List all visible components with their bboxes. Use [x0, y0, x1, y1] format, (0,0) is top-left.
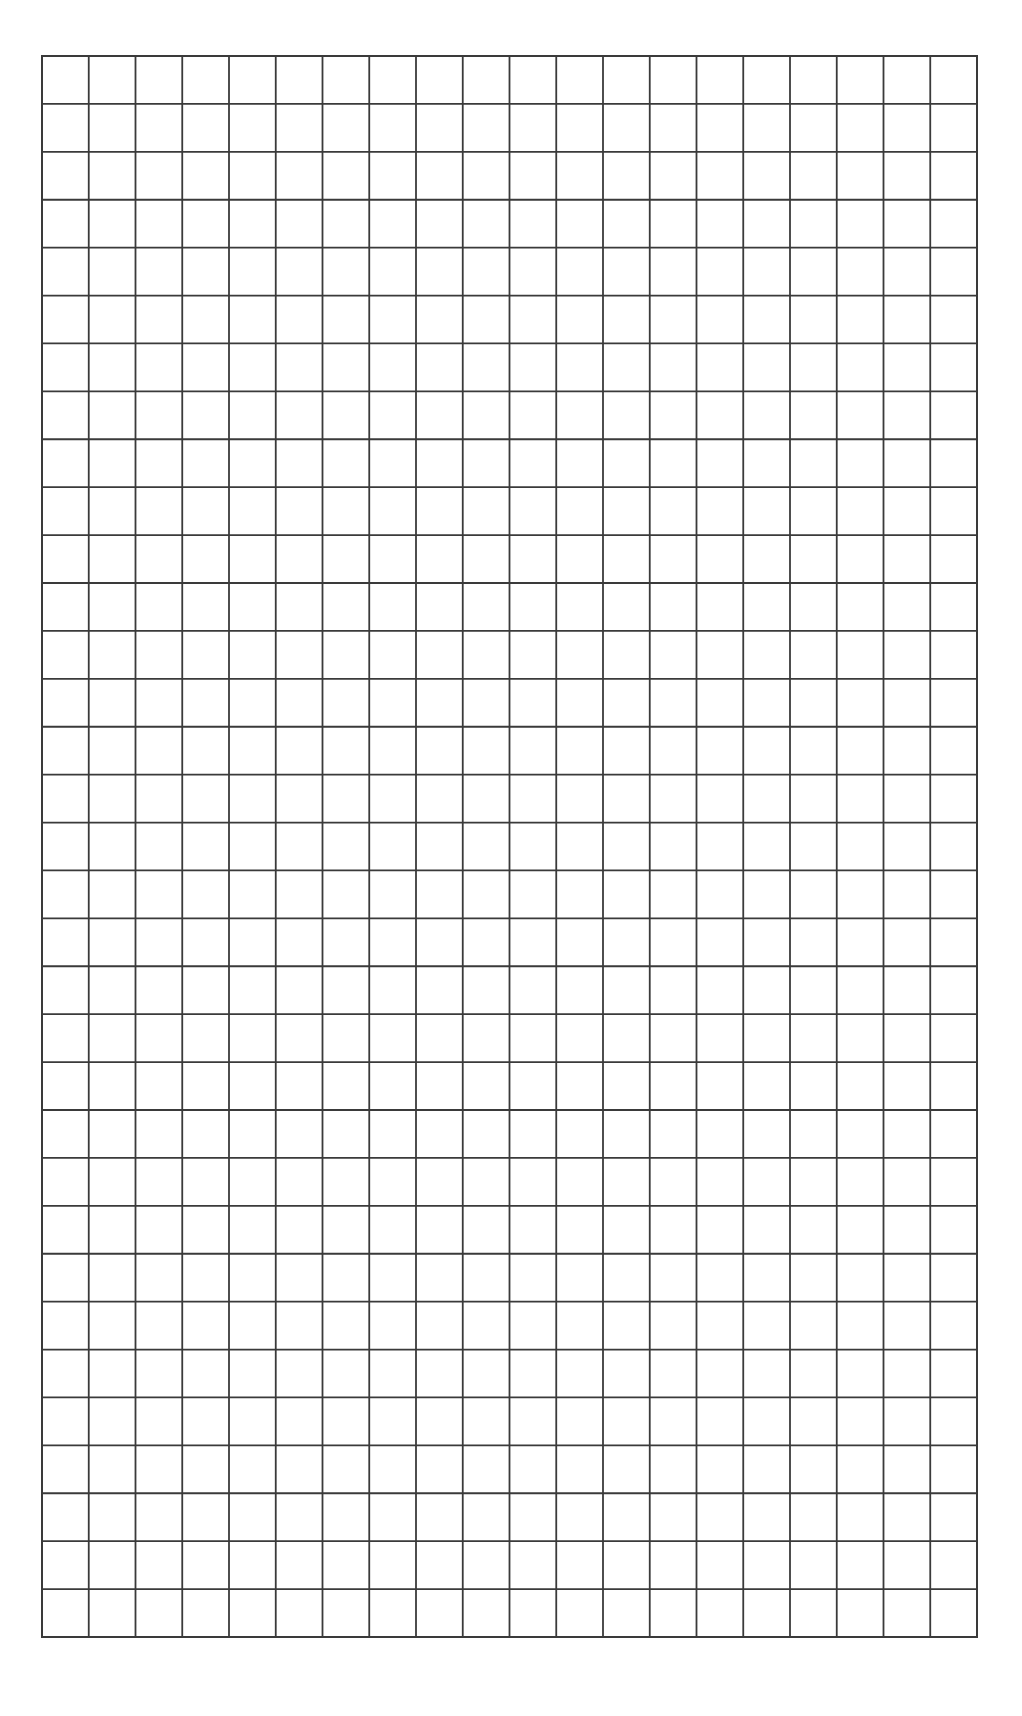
graph-paper-grid	[42, 56, 977, 1637]
grid-lines	[42, 56, 977, 1637]
